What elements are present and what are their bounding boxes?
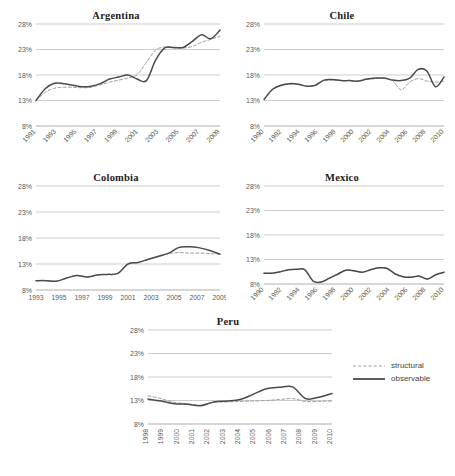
y-tick-label: 13%	[18, 261, 32, 268]
chart-plot-peru: 8%13%18%23%28%19981999200020012002200320…	[118, 328, 338, 474]
x-tick-label: 2001	[188, 429, 195, 444]
legend-key-observable	[352, 374, 386, 384]
chart-svg-mexico: 8%13%18%23%28%19901992199419961998200020…	[234, 184, 450, 312]
y-tick-label: 8%	[22, 287, 32, 294]
y-tick-label: 23%	[130, 350, 144, 357]
x-tick-label: 1993	[42, 128, 58, 144]
chart-panel-mexico: Mexico 8%13%18%23%28%1990199219941996199…	[234, 172, 450, 312]
x-tick-label: 2004	[375, 128, 391, 144]
x-tick-label: 2004	[375, 286, 391, 302]
chart-plot-mexico: 8%13%18%23%28%19901992199419961998200020…	[234, 184, 450, 312]
chart-svg-chile: 8%13%18%23%28%19901992199419961998200020…	[234, 22, 450, 168]
x-tick-label: 1997	[82, 128, 98, 144]
figure-canvas: Argentina 8%13%18%23%28%1991199319951997…	[0, 0, 455, 476]
y-tick-label: 13%	[246, 256, 260, 263]
x-tick-label: 1996	[303, 128, 319, 144]
x-tick-label: 2005	[164, 128, 180, 144]
chart-title-mexico: Mexico	[234, 172, 450, 184]
series-observable	[264, 69, 444, 100]
chart-title-colombia: Colombia	[6, 172, 226, 184]
legend-label-structural: structural	[391, 361, 424, 370]
legend: structural observable	[352, 359, 430, 385]
x-tick-label: 1999	[157, 429, 164, 444]
chart-title-chile: Chile	[234, 10, 450, 22]
x-tick-label: 2008	[411, 128, 427, 144]
legend-key-structural	[352, 361, 386, 371]
y-tick-label: 18%	[18, 235, 32, 242]
legend-entry-observable: observable	[352, 372, 430, 385]
x-tick-label: 2005	[249, 429, 256, 444]
x-tick-label: 2003	[144, 128, 160, 144]
chart-svg-colombia: 8%13%18%23%28%19931995199719992001200320…	[6, 184, 226, 312]
chart-panel-colombia: Colombia 8%13%18%23%28%19931995199719992…	[6, 172, 226, 312]
y-tick-label: 8%	[134, 421, 144, 428]
x-tick-label: 2010	[429, 286, 445, 302]
x-tick-label: 2002	[203, 429, 210, 444]
y-tick-label: 28%	[246, 22, 260, 28]
x-tick-label: 2010	[326, 429, 333, 444]
x-tick-label: 2006	[265, 429, 272, 444]
y-tick-label: 13%	[130, 397, 144, 404]
x-tick-label: 2006	[393, 128, 409, 144]
chart-title-argentina: Argentina	[6, 10, 226, 22]
x-tick-label: 1997	[74, 294, 89, 301]
y-tick-label: 28%	[18, 22, 32, 28]
y-tick-label: 23%	[246, 46, 260, 53]
chart-panel-chile: Chile 8%13%18%23%28%19901992199419961998…	[234, 10, 450, 168]
x-tick-label: 1992	[267, 286, 283, 302]
x-tick-label: 2009	[205, 128, 221, 144]
x-tick-label: 1996	[303, 286, 319, 302]
y-tick-label: 13%	[246, 97, 260, 104]
y-tick-label: 28%	[246, 184, 260, 190]
y-tick-label: 13%	[18, 97, 32, 104]
x-tick-label: 1990	[249, 286, 265, 302]
x-tick-label: 2009	[212, 294, 226, 301]
chart-title-peru: Peru	[118, 316, 338, 328]
chart-plot-chile: 8%13%18%23%28%19901992199419961998200020…	[234, 22, 450, 168]
x-tick-label: 2001	[123, 128, 139, 144]
x-tick-label: 2008	[295, 429, 302, 444]
chart-plot-argentina: 8%13%18%23%28%19911993199519971999200120…	[6, 22, 226, 168]
chart-svg-peru: 8%13%18%23%28%19981999200020012002200320…	[118, 328, 338, 474]
x-tick-label: 1994	[285, 286, 301, 302]
series-structural	[36, 36, 220, 100]
x-tick-label: 2000	[339, 286, 355, 302]
x-tick-label: 1994	[285, 128, 301, 144]
y-tick-label: 28%	[130, 328, 144, 334]
y-tick-label: 28%	[18, 184, 32, 190]
x-tick-label: 2007	[280, 429, 287, 444]
series-observable	[36, 30, 220, 100]
y-tick-label: 23%	[18, 209, 32, 216]
x-tick-label: 2003	[143, 294, 158, 301]
x-tick-label: 2002	[357, 128, 373, 144]
chart-plot-colombia: 8%13%18%23%28%19931995199719992001200320…	[6, 184, 226, 312]
x-tick-label: 2007	[189, 294, 204, 301]
x-tick-label: 2004	[234, 429, 241, 444]
y-tick-label: 18%	[18, 72, 32, 79]
y-tick-label: 23%	[18, 46, 32, 53]
x-tick-label: 2009	[311, 429, 318, 444]
y-tick-label: 18%	[246, 232, 260, 239]
y-tick-label: 18%	[130, 374, 144, 381]
x-tick-label: 1998	[321, 128, 337, 144]
y-tick-label: 23%	[246, 207, 260, 214]
x-tick-label: 2002	[357, 286, 373, 302]
x-tick-label: 1992	[267, 128, 283, 144]
x-tick-label: 2000	[173, 429, 180, 444]
x-tick-label: 1998	[321, 286, 337, 302]
x-tick-label: 2003	[219, 429, 226, 444]
x-tick-label: 2006	[393, 286, 409, 302]
x-tick-label: 2000	[339, 128, 355, 144]
chart-panel-argentina: Argentina 8%13%18%23%28%1991199319951997…	[6, 10, 226, 168]
x-tick-label: 2001	[120, 294, 135, 301]
x-tick-label: 1995	[51, 294, 66, 301]
x-tick-label: 2005	[166, 294, 181, 301]
y-tick-label: 18%	[246, 72, 260, 79]
x-tick-label: 2007	[185, 128, 201, 144]
x-tick-label: 2008	[411, 286, 427, 302]
x-tick-label: 1999	[103, 128, 119, 144]
x-tick-label: 2010	[429, 128, 445, 144]
x-tick-label: 1995	[62, 128, 78, 144]
series-observable	[264, 268, 444, 283]
chart-svg-argentina: 8%13%18%23%28%19911993199519971999200120…	[6, 22, 226, 168]
